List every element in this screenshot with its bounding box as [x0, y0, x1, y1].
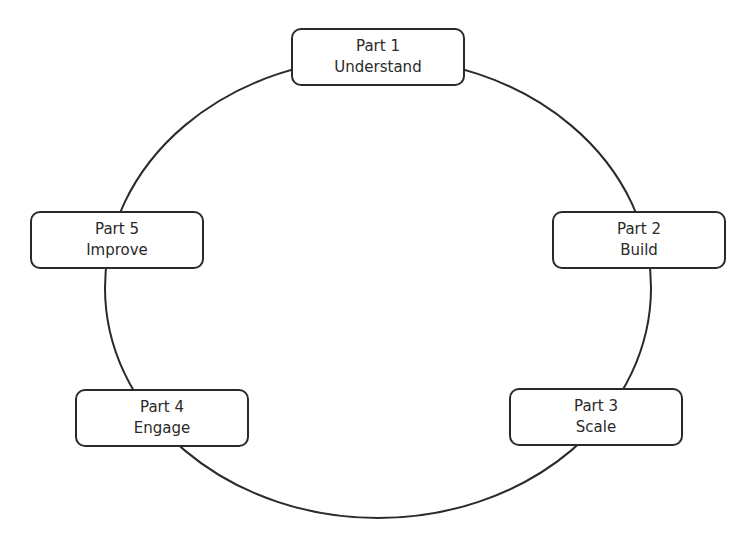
node-part-4-title: Part 4 — [140, 397, 184, 418]
node-part-4-label: Engage — [134, 418, 190, 439]
node-part-3-title: Part 3 — [574, 396, 618, 417]
node-part-5-label: Improve — [86, 240, 148, 261]
node-part-1-label: Understand — [334, 57, 421, 78]
node-part-3: Part 3 Scale — [509, 388, 683, 446]
node-part-5-title: Part 5 — [95, 219, 139, 240]
node-part-4: Part 4 Engage — [75, 389, 249, 447]
node-part-5: Part 5 Improve — [30, 211, 204, 269]
node-part-1: Part 1 Understand — [291, 28, 465, 86]
node-part-2-title: Part 2 — [617, 219, 661, 240]
node-part-2: Part 2 Build — [552, 211, 726, 269]
node-part-2-label: Build — [620, 240, 658, 261]
node-part-3-label: Scale — [576, 417, 616, 438]
node-part-1-title: Part 1 — [356, 36, 400, 57]
